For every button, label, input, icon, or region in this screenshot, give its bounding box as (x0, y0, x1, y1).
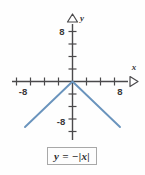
x-axis-name: x (131, 62, 137, 72)
coordinate-plot: -8 8 8 -8 x y (0, 0, 145, 145)
x-axis-label-positive-eight: 8 (117, 86, 122, 97)
x-axis-arrow-icon (130, 77, 138, 87)
y-axis-label-negative-eight: -8 (57, 116, 65, 127)
y-axis-arrow-icon (68, 14, 78, 22)
x-axis-label-negative-eight: -8 (19, 86, 27, 97)
y-axis-label-positive-eight: 8 (59, 26, 64, 37)
y-axis-name: y (79, 13, 85, 23)
equation-label: y = −|x| (54, 150, 90, 162)
equation-box: y = −|x| (47, 147, 97, 165)
graph-figure: -8 8 8 -8 x y y = −|x| (0, 0, 145, 175)
